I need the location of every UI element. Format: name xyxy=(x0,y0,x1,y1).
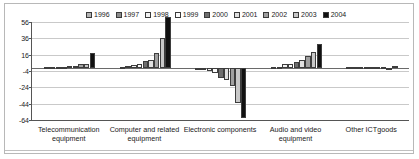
legend-label: 1996 xyxy=(94,11,110,19)
category-label: Electronic components xyxy=(182,122,258,148)
bar[interactable] xyxy=(165,17,170,68)
y-tick-label: -44 xyxy=(19,100,29,107)
legend-entry[interactable]: 2001 xyxy=(234,11,258,19)
category-axis-labels: Telecommunication equipmentComputer and … xyxy=(31,122,409,148)
chart-legend: 199619971998199920002001200220032004 xyxy=(86,9,346,20)
legend-entry[interactable]: 1999 xyxy=(175,11,199,19)
bar[interactable] xyxy=(56,67,61,69)
bar[interactable] xyxy=(224,68,229,80)
bar[interactable] xyxy=(375,67,380,69)
bar-group xyxy=(334,22,410,120)
y-tick-label: -64 xyxy=(19,117,29,124)
bar-group xyxy=(259,22,335,120)
bar[interactable] xyxy=(143,61,148,68)
bar-group xyxy=(32,22,108,120)
y-tick-label: -24 xyxy=(19,84,29,91)
bar[interactable] xyxy=(44,67,49,69)
bar[interactable] xyxy=(317,44,322,68)
y-tick-label: -4 xyxy=(23,68,29,75)
bar[interactable] xyxy=(125,66,130,68)
legend-label: 1999 xyxy=(183,11,199,19)
legend-swatch-icon xyxy=(175,12,181,18)
legend-entry[interactable]: 2002 xyxy=(263,11,287,19)
bar-group xyxy=(183,22,259,120)
legend-swatch-icon xyxy=(116,12,122,18)
bar[interactable] xyxy=(358,67,363,69)
bar[interactable] xyxy=(282,64,287,68)
category-label: Telecommunication equipment xyxy=(31,122,107,148)
legend-label: 2004 xyxy=(331,11,347,19)
legend-label: 2003 xyxy=(301,11,317,19)
bar[interactable] xyxy=(346,67,351,69)
bar[interactable] xyxy=(294,62,299,67)
bar[interactable] xyxy=(352,67,357,69)
y-tick-label: 56 xyxy=(21,19,29,26)
bar[interactable] xyxy=(160,38,165,68)
bar[interactable] xyxy=(241,68,246,119)
legend-entry[interactable]: 1996 xyxy=(86,11,110,19)
legend-swatch-icon xyxy=(263,12,269,18)
legend-label: 1997 xyxy=(124,11,140,19)
bar[interactable] xyxy=(311,52,316,68)
bar-group xyxy=(108,22,184,120)
y-tick-label: 36 xyxy=(21,35,29,42)
bar[interactable] xyxy=(212,68,217,74)
bar[interactable] xyxy=(131,65,136,67)
bar[interactable] xyxy=(392,66,397,68)
legend-label: 2002 xyxy=(271,11,287,19)
bar[interactable] xyxy=(137,64,142,68)
bar[interactable] xyxy=(305,56,310,67)
legend-entry[interactable]: 2000 xyxy=(204,11,228,19)
legend-label: 2001 xyxy=(242,11,258,19)
bar[interactable] xyxy=(271,67,276,69)
bar[interactable] xyxy=(201,68,206,70)
bar[interactable] xyxy=(90,53,95,68)
legend-swatch-icon xyxy=(234,12,240,18)
bar[interactable] xyxy=(277,67,282,69)
legend-swatch-icon xyxy=(204,12,210,18)
bar[interactable] xyxy=(207,68,212,71)
legend-entry[interactable]: 2004 xyxy=(323,11,347,19)
bar[interactable] xyxy=(154,53,159,68)
legend-entry[interactable]: 2003 xyxy=(293,11,317,19)
y-tick-label: 16 xyxy=(21,51,29,58)
bar[interactable] xyxy=(195,68,200,70)
bottom-divider xyxy=(5,150,413,151)
bar[interactable] xyxy=(299,60,304,67)
bar[interactable] xyxy=(50,67,55,69)
bar[interactable] xyxy=(288,64,293,68)
legend-swatch-icon xyxy=(293,12,299,18)
bar[interactable] xyxy=(235,68,240,103)
chart-container: 199619971998199920002001200220032004 563… xyxy=(0,0,419,159)
legend-label: 2000 xyxy=(212,11,228,19)
bar[interactable] xyxy=(61,67,66,69)
legend-swatch-icon xyxy=(145,12,151,18)
bar[interactable] xyxy=(381,67,386,69)
bar[interactable] xyxy=(218,68,223,78)
bar[interactable] xyxy=(78,64,83,67)
bar[interactable] xyxy=(73,66,78,68)
bar[interactable] xyxy=(369,67,374,69)
bar[interactable] xyxy=(120,67,125,69)
category-label: Audio and video equipment xyxy=(258,122,334,148)
category-label: Computer and related equipment xyxy=(107,122,183,148)
bar[interactable] xyxy=(84,64,89,68)
bar[interactable] xyxy=(148,60,153,68)
category-label: Other ICTgoods xyxy=(333,122,409,148)
bar[interactable] xyxy=(67,66,72,68)
legend-swatch-icon xyxy=(323,12,329,18)
bar[interactable] xyxy=(386,68,391,70)
bar[interactable] xyxy=(230,68,235,86)
legend-swatch-icon xyxy=(86,12,92,18)
x-axis-line xyxy=(31,120,409,121)
plot-area: 563616-4-24-44-64 xyxy=(31,22,409,120)
bar[interactable] xyxy=(364,67,369,69)
legend-entry[interactable]: 1997 xyxy=(116,11,140,19)
